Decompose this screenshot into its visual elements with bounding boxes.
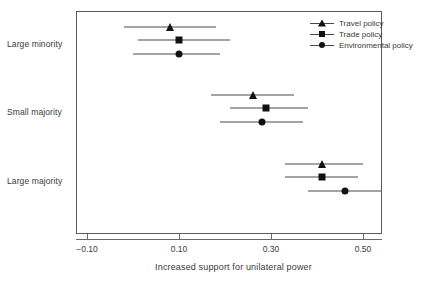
- square-marker-point: [263, 105, 270, 112]
- x-axis-tick-label: 0.50: [355, 244, 372, 254]
- coefficient-plot-figure: Large minority Small majority Large majo…: [0, 0, 429, 284]
- x-axis-tick-label: 0.30: [263, 244, 280, 254]
- triangle-marker-point: [166, 23, 174, 31]
- square-marker-point: [176, 37, 183, 44]
- x-axis-title: Increased support for unilateral power: [0, 262, 429, 272]
- circle-marker-point: [258, 119, 265, 126]
- x-axis-tick-label: 0.10: [171, 244, 188, 254]
- legend-item-label: Travel policy: [339, 18, 384, 29]
- legend-item-environmental-policy: Environmental policy: [310, 40, 376, 51]
- circle-marker-point: [176, 51, 183, 58]
- legend-item-label: Environmental policy: [339, 40, 413, 51]
- triangle-marker-icon: [318, 20, 326, 27]
- triangle-marker-point: [249, 91, 257, 99]
- legend-item-travel-policy: Travel policy: [310, 18, 376, 29]
- y-axis-category-large-majority: Large majority: [7, 176, 71, 186]
- y-axis-category-large-minority: Large minority: [7, 39, 71, 49]
- x-axis-line: [76, 239, 382, 240]
- legend-item-trade-policy: Trade policy: [310, 29, 376, 40]
- circle-marker-icon: [319, 42, 325, 48]
- x-axis-tick-label: −0.10: [76, 244, 98, 254]
- y-axis-category-small-majority: Small majority: [7, 107, 71, 117]
- error-bar: [138, 40, 230, 41]
- x-axis-tick: [363, 234, 364, 240]
- x-axis-tick: [179, 234, 180, 240]
- x-axis-tick: [87, 234, 88, 240]
- legend: Travel policy Trade policy Environmental…: [310, 18, 376, 51]
- x-axis-tick: [271, 234, 272, 240]
- square-marker-icon: [319, 31, 325, 37]
- legend-item-label: Trade policy: [339, 29, 382, 40]
- x-axis-title-text: Increased support for unilateral power: [155, 262, 312, 272]
- triangle-marker-point: [318, 160, 326, 168]
- circle-marker-point: [341, 188, 348, 195]
- square-marker-point: [318, 174, 325, 181]
